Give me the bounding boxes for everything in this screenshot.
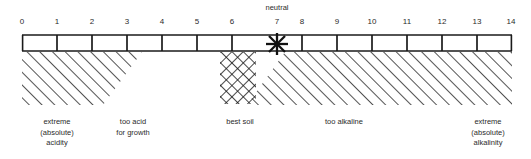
tick-label-14: 14 (507, 18, 516, 26)
tick-label-11: 11 (403, 18, 411, 26)
zone-label-best-soil: best soil (226, 117, 254, 128)
tick-label-0: 0 (20, 18, 24, 26)
tick-label-8: 8 (300, 18, 304, 26)
neutral-marker-icon (266, 33, 288, 55)
tick-label-9: 9 (335, 18, 339, 26)
tick-label-7: 7 (275, 18, 279, 26)
tick-label-2: 2 (90, 18, 94, 26)
tick-label-13: 13 (473, 18, 482, 26)
zone-line: (absolute) (40, 128, 73, 139)
ph-scale-diagram (0, 0, 531, 159)
zone-label-too-acid: too acid for growth (116, 117, 149, 138)
region-acid-hatch (18, 50, 148, 108)
tick-label-5: 5 (195, 18, 199, 26)
neutral-label: neutral (266, 4, 289, 12)
zone-line: acidity (40, 138, 73, 149)
tick-label-6: 6 (230, 18, 234, 26)
zone-line: extreme (471, 117, 504, 128)
tick-label-10: 10 (368, 18, 377, 26)
tick-label-3: 3 (125, 18, 129, 26)
tick-label-4: 4 (160, 18, 164, 26)
zone-line: too alkaline (325, 117, 363, 128)
zone-line: extreme (40, 117, 73, 128)
zone-label-extreme-alkalinity: extreme (absolute) alkalinity (471, 117, 504, 149)
zone-line: too acid (116, 117, 149, 128)
zone-line: alkalinity (471, 138, 504, 149)
tick-label-12: 12 (438, 18, 447, 26)
zone-line: (absolute) (471, 128, 504, 139)
zone-label-too-alkaline: too alkaline (325, 117, 363, 128)
zone-line: for growth (116, 128, 149, 139)
tick-label-1: 1 (55, 18, 59, 26)
zone-line: best soil (226, 117, 254, 128)
region-alkaline-hatch (243, 50, 518, 108)
zone-label-extreme-acidity: extreme (absolute) acidity (40, 117, 73, 149)
